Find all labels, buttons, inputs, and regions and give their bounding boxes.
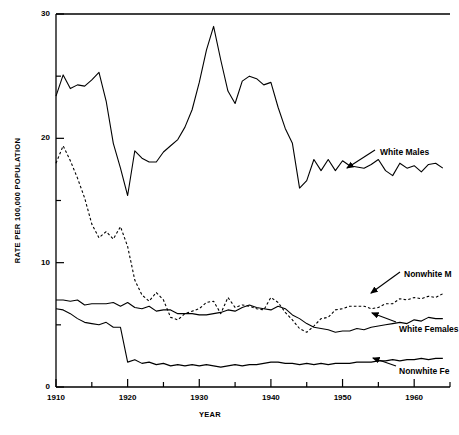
x-tick-label: 1910 (36, 393, 76, 402)
x-tick-label: 1930 (179, 393, 219, 402)
series-line-nonwhite-males (56, 146, 443, 333)
chart-figure: RATE PER 100,000 POPULATION YEAR 0102030… (0, 0, 459, 435)
x-axis-title: YEAR (150, 410, 270, 419)
y-axis-title: RATE PER 100,000 POPULATION (13, 126, 22, 276)
y-tick-label: 30 (22, 9, 50, 18)
x-tick-label: 1960 (394, 393, 434, 402)
annotation-leader-2 (372, 313, 396, 322)
x-tick-label: 1920 (108, 393, 148, 402)
x-tick-label: 1950 (323, 393, 363, 402)
annotation-leader-1 (371, 272, 400, 293)
series-label-white-females: White Females (399, 324, 459, 334)
y-tick-label: 20 (22, 133, 50, 142)
annotation-leader-0 (347, 150, 375, 168)
series-label-nonwhite-fe: Nonwhite Fe (399, 366, 450, 376)
x-tick-label: 1940 (251, 393, 291, 402)
series-line-white-males (56, 26, 443, 195)
series-label-white-males: White Males (380, 147, 429, 157)
chart-plot-area (0, 0, 459, 435)
y-tick-label: 0 (22, 382, 50, 391)
series-label-nonwhite-m: Nonwhite M (404, 269, 452, 279)
y-tick-label: 10 (22, 258, 50, 267)
